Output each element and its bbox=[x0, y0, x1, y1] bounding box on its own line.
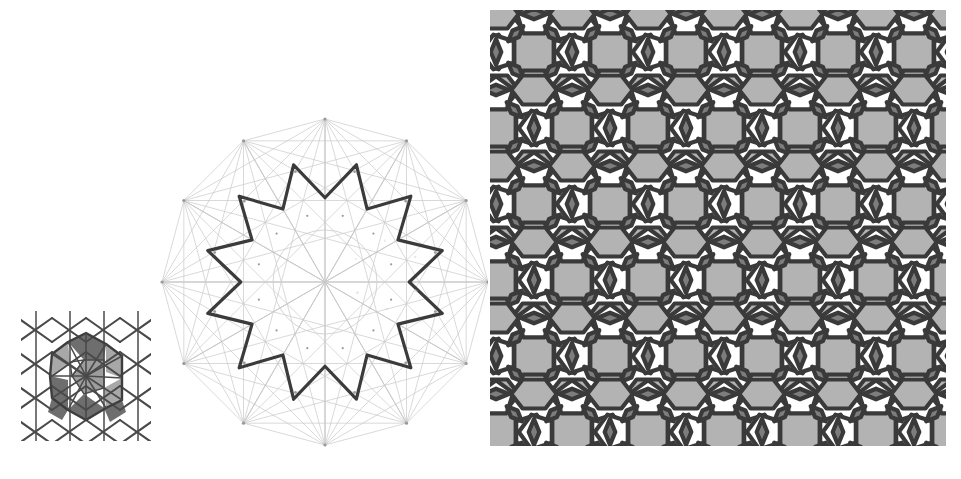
panel-c-svg bbox=[488, 8, 948, 448]
panel-star-construction: abcdef bbox=[160, 110, 490, 455]
panel-a-svg bbox=[18, 308, 154, 444]
panel-b-svg: abcdef bbox=[160, 110, 490, 455]
panel-triangulated-patch bbox=[18, 308, 154, 444]
figure-caption bbox=[150, 455, 810, 477]
figure-root: abcdef bbox=[0, 0, 961, 479]
panel-tiling bbox=[488, 8, 948, 448]
